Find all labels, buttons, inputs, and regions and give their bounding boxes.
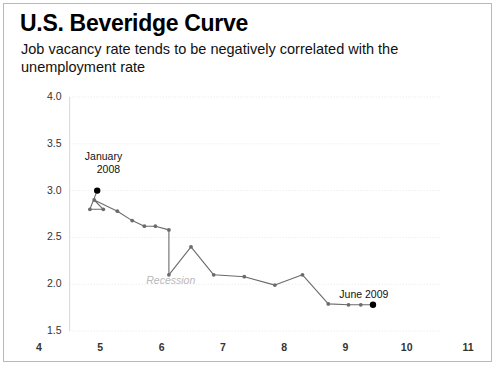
data-point — [242, 275, 246, 279]
x-axis-tick-label: 8 — [272, 341, 296, 353]
highlight-data-point — [94, 187, 100, 193]
point-annotation: 2008 — [97, 163, 120, 175]
y-axis-tick-label: 4.0 — [36, 90, 62, 102]
y-axis-tick-label: 2.5 — [36, 230, 62, 242]
data-point — [347, 303, 351, 307]
data-point — [326, 302, 330, 306]
point-annotation: June 2009 — [339, 288, 388, 300]
data-point — [167, 228, 171, 232]
y-axis-tick-label: 1.5 — [36, 324, 62, 336]
y-axis-tick-label: 2.0 — [36, 277, 62, 289]
x-axis-tick-label: 6 — [150, 341, 174, 353]
beveridge-curve-svg — [4, 4, 492, 362]
chart-plot-area: 1.52.02.53.03.54.04567891011January2008R… — [4, 4, 492, 362]
data-point — [359, 303, 363, 307]
data-point — [116, 209, 120, 213]
x-axis-tick-label: 10 — [395, 341, 419, 353]
recession-annotation: Recession — [146, 274, 195, 286]
data-point — [92, 198, 96, 202]
data-point — [101, 207, 105, 211]
y-axis-tick-label: 3.0 — [36, 184, 62, 196]
chart-card: U.S. Beveridge Curve Job vacancy rate te… — [3, 3, 492, 362]
data-point — [143, 224, 147, 228]
highlight-data-point — [370, 302, 376, 308]
data-point — [130, 219, 134, 223]
data-point — [154, 224, 158, 228]
data-point — [301, 273, 305, 277]
data-point — [88, 207, 92, 211]
data-point — [212, 273, 216, 277]
data-point — [189, 245, 193, 249]
x-axis-tick-label: 9 — [333, 341, 357, 353]
x-axis-tick-label: 5 — [88, 341, 112, 353]
series-line — [90, 191, 373, 305]
data-point — [273, 283, 277, 287]
x-axis-tick-label: 11 — [456, 341, 480, 353]
x-axis-tick-label: 4 — [27, 341, 51, 353]
point-annotation: January — [85, 150, 122, 162]
x-axis-tick-label: 7 — [211, 341, 235, 353]
y-axis-tick-label: 3.5 — [36, 137, 62, 149]
